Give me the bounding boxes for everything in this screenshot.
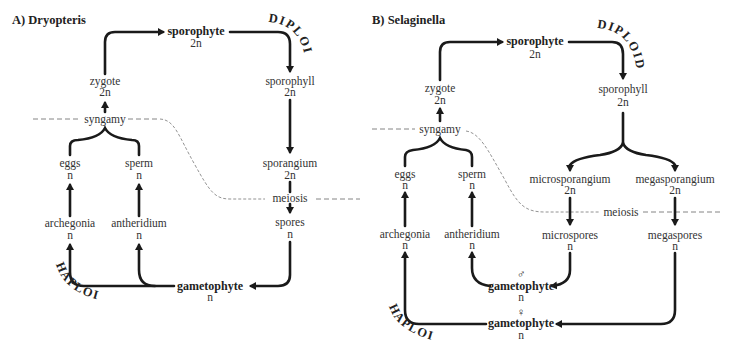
node-syngamy: syngamy bbox=[419, 123, 461, 136]
node-sporophyll: sporophyll bbox=[598, 83, 647, 96]
phase-label-haploid: HAPLOID bbox=[0, 0, 101, 303]
ploidy-label: n bbox=[469, 239, 475, 251]
node-syngamy: syngamy bbox=[84, 113, 126, 126]
bracket-eggs-sperm-to-syngamy bbox=[70, 128, 139, 155]
ploidy-label: 2n bbox=[669, 184, 681, 196]
ploidy-label: n bbox=[518, 329, 524, 341]
ploidy-label: 2n bbox=[564, 184, 576, 196]
ploidy-label: n bbox=[672, 240, 678, 252]
ploidy-label: 2n bbox=[284, 86, 296, 98]
node-antheridium: antheridium bbox=[111, 217, 167, 229]
arrow-female-gametophyte-to-archegonia bbox=[405, 253, 486, 324]
ploidy-label: n bbox=[67, 169, 73, 181]
node-sporophyte: sporophyte bbox=[506, 34, 564, 48]
phase-boundary-curve bbox=[466, 131, 600, 212]
ploidy-label: n bbox=[67, 229, 73, 241]
bracket-eggs-sperm-to-syngamy bbox=[405, 138, 472, 166]
arrow-microspores-to-male-gametophyte bbox=[552, 253, 570, 286]
phase-boundary-curve bbox=[160, 119, 265, 199]
panel-b-selaginella: B) Selaginella sporophyte 2n zygote 2n s… bbox=[0, 0, 720, 343]
arrow-megaspores-to-female-gametophyte bbox=[557, 253, 675, 324]
ploidy-label: 2n bbox=[284, 169, 296, 181]
ploidy-label: n bbox=[402, 179, 408, 191]
life-cycle-diagram: A) Dryopteris sporophyte 2n zygote 2n sy… bbox=[0, 0, 729, 347]
arrow-zygote-to-sporophyte bbox=[440, 42, 502, 80]
panel-b-title: B) Selaginella bbox=[372, 13, 446, 27]
arrow-sporophyte-to-sporophyll bbox=[569, 42, 623, 78]
ploidy-label: 2n bbox=[529, 48, 541, 60]
ploidy-label: n bbox=[136, 169, 142, 181]
ploidy-label: 2n bbox=[434, 94, 446, 106]
ploidy-label: n bbox=[207, 291, 213, 303]
ploidy-label: n bbox=[518, 291, 524, 303]
phase-label-diploid: DIPLOID bbox=[0, 0, 315, 55]
arrow-gametophyte-to-archegonia bbox=[70, 245, 174, 286]
panel-a-dryopteris: A) Dryopteris sporophyte 2n zygote 2n sy… bbox=[0, 0, 360, 303]
ploidy-label: n bbox=[567, 240, 573, 252]
ploidy-label: 2n bbox=[617, 96, 629, 108]
arrow-gametophyte-to-antheridium bbox=[139, 245, 155, 286]
arrow-sporophyll-to-megasporangium bbox=[623, 143, 675, 170]
node-meiosis: meiosis bbox=[272, 192, 308, 204]
ploidy-label: 2n bbox=[99, 86, 111, 98]
ploidy-label: 2n bbox=[190, 37, 202, 49]
node-female-gametophyte: gametophyte bbox=[488, 316, 555, 330]
panel-a-title: A) Dryopteris bbox=[12, 13, 86, 27]
ploidy-label: n bbox=[287, 228, 293, 240]
ploidy-label: n bbox=[402, 239, 408, 251]
arrow-sporophyte-to-sporophyll bbox=[230, 32, 290, 71]
ploidy-label: n bbox=[469, 179, 475, 191]
node-meiosis: meiosis bbox=[603, 206, 639, 218]
ploidy-label: n bbox=[136, 229, 142, 241]
arrow-spores-to-gametophyte bbox=[251, 242, 290, 286]
arrow-zygote-to-sporophyte bbox=[105, 32, 163, 74]
node-sporophyte: sporophyte bbox=[167, 24, 225, 38]
arrow-sporophyll-to-microsporangium bbox=[570, 113, 623, 170]
